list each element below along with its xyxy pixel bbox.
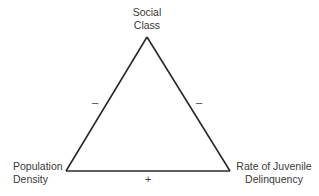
node-delinquency-line1: Rate of Juvenile [234, 160, 314, 173]
edge-sign-bottom: + [145, 173, 151, 185]
node-population-density-line2: Density [13, 173, 63, 186]
node-population-density: Population Density [13, 160, 63, 186]
node-social-class-line1: Social [122, 6, 172, 19]
node-population-density-line1: Population [13, 160, 63, 173]
edge-sign-left: – [92, 96, 98, 108]
edge-social-class-delinquency [147, 37, 230, 171]
node-delinquency-line2: Delinquency [234, 173, 314, 186]
edge-sign-right: – [196, 96, 202, 108]
node-social-class-line2: Class [122, 19, 172, 32]
node-social-class: Social Class [122, 6, 172, 32]
node-delinquency: Rate of Juvenile Delinquency [234, 160, 314, 186]
edge-social-class-population-density [66, 37, 147, 171]
